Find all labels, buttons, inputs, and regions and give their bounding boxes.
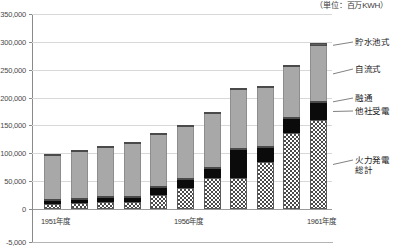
- segment-thermal: [204, 178, 221, 209]
- segment-runoff: [124, 144, 141, 196]
- segment-runoff: [204, 114, 221, 167]
- segment-purchased: [204, 169, 221, 178]
- y-tick-label: 350,000: [0, 10, 26, 19]
- bar-1958年度[interactable]: [230, 88, 247, 209]
- legend-runoff: 自流式: [355, 64, 381, 74]
- bar-1951年度[interactable]: [44, 154, 61, 209]
- segment-runoff: [257, 88, 274, 146]
- segment-thermal: [283, 133, 300, 209]
- zero-baseline: [32, 209, 332, 210]
- segment-thermal: [150, 195, 167, 209]
- segment-runoff: [177, 127, 194, 178]
- bar-1960年度[interactable]: [283, 65, 300, 209]
- segment-thermal: [97, 202, 114, 209]
- y-tick-label: 150,000: [0, 121, 26, 130]
- y-tick-label: 200,000: [0, 94, 26, 103]
- segment-thermal: [124, 202, 141, 209]
- legend-purchased: 他社受電: [355, 106, 390, 116]
- chart-root: （単位：百万KWH） 350,000300,000250,000200,0001…: [0, 0, 393, 247]
- legend-interchange-label: 融通: [355, 93, 372, 103]
- segment-thermal: [177, 188, 194, 209]
- x-tick-label: 1961年度: [307, 215, 336, 226]
- bar-1954年度[interactable]: [124, 142, 141, 209]
- y-tick-label: 0: [22, 205, 26, 214]
- segment-purchased: [310, 103, 327, 121]
- segment-purchased: [177, 180, 194, 188]
- segment-thermal: [44, 204, 61, 209]
- segment-runoff: [97, 148, 114, 196]
- segment-thermal: [257, 162, 274, 209]
- segment-purchased: [283, 119, 300, 133]
- legend-thermal: 火力発電総計: [355, 155, 390, 175]
- segment-runoff: [150, 135, 167, 186]
- bar-1953年度[interactable]: [97, 146, 114, 209]
- segment-purchased: [257, 148, 274, 161]
- y-axis-extension: [32, 209, 33, 243]
- bar-1959年度[interactable]: [257, 86, 274, 209]
- segment-thermal: [310, 120, 327, 209]
- legend-reservoir-label: 貯水池式: [355, 37, 390, 47]
- segment-purchased: [150, 188, 167, 195]
- plot-area: [32, 14, 332, 209]
- segment-thermal: [230, 178, 247, 209]
- legend-interchange: 融通: [355, 93, 372, 103]
- y-tick-label: 100,000: [0, 149, 26, 158]
- segment-thermal: [71, 203, 88, 209]
- x-tick-label: 1951年度: [41, 215, 70, 226]
- bar-1956年度[interactable]: [177, 125, 194, 209]
- segment-runoff: [71, 152, 88, 197]
- bar-series-layer: [32, 14, 332, 209]
- y-tick-label: 50,000: [4, 177, 26, 186]
- legend-thermal-label: 火力発電: [355, 155, 390, 165]
- bar-1961年度[interactable]: [310, 43, 327, 209]
- legend-runoff-label: 自流式: [355, 64, 381, 74]
- chart-bottom-frame: [32, 242, 333, 243]
- legend-callouts: 貯水池式自流式融通他社受電火力発電総計: [333, 0, 393, 247]
- legend-reservoir: 貯水池式: [355, 37, 390, 47]
- segment-runoff: [310, 46, 327, 101]
- segment-runoff: [230, 90, 247, 147]
- y-tick-label-negative: -5,000: [6, 238, 26, 247]
- legend-purchased-label: 他社受電: [355, 106, 390, 116]
- x-tick-label: 1956年度: [174, 215, 203, 226]
- legend-thermal-label2: 総計: [355, 165, 390, 175]
- bar-1957年度[interactable]: [204, 112, 221, 209]
- y-tick-label: 300,000: [0, 38, 26, 47]
- segment-purchased: [230, 150, 247, 178]
- segment-runoff: [44, 156, 61, 199]
- bar-1952年度[interactable]: [71, 150, 88, 209]
- y-axis-labels: 350,000300,000250,000200,000150,000100,0…: [0, 14, 30, 209]
- y-tick-label: 250,000: [0, 66, 26, 75]
- segment-runoff: [283, 67, 300, 117]
- bar-1955年度[interactable]: [150, 133, 167, 209]
